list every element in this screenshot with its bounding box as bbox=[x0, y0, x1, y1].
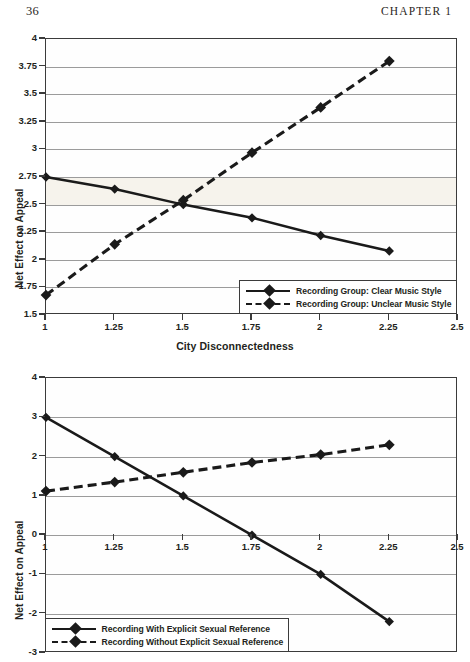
y-tick bbox=[39, 203, 45, 205]
x-tick-label: 2.25 bbox=[368, 541, 408, 552]
legend-label: Recording Without Explicit Sexual Refere… bbox=[102, 637, 284, 647]
x-tick bbox=[182, 534, 184, 540]
x-tick bbox=[250, 314, 252, 320]
y-tick bbox=[39, 148, 45, 150]
y-tick-label: 0 bbox=[1, 528, 37, 539]
y-tick bbox=[39, 37, 45, 39]
y-tick-label: 3.5 bbox=[1, 87, 37, 98]
data-point-marker bbox=[178, 467, 189, 478]
y-tick bbox=[39, 92, 45, 94]
y-tick bbox=[39, 120, 45, 122]
plot-area-bottom: Recording With Explicit Sexual Reference… bbox=[45, 377, 457, 652]
y-tick-label: -3 bbox=[1, 646, 37, 657]
legend-label: Recording With Explicit Sexual Reference bbox=[102, 624, 270, 634]
x-tick-label: 2.5 bbox=[437, 321, 470, 332]
data-point-marker bbox=[247, 213, 256, 222]
y-tick-label: 2.5 bbox=[1, 198, 37, 209]
x-tick bbox=[456, 534, 458, 540]
legend-key-solid-icon bbox=[50, 623, 98, 635]
y-tick-label: 3.75 bbox=[1, 60, 37, 71]
x-tick bbox=[113, 534, 115, 540]
data-point-marker bbox=[316, 231, 325, 240]
legend-key-solid-icon bbox=[244, 285, 292, 297]
x-tick-label: 2.5 bbox=[437, 541, 470, 552]
y-tick-label: -1 bbox=[1, 567, 37, 578]
series-line bbox=[46, 417, 389, 621]
y-tick bbox=[39, 573, 45, 575]
data-point-marker bbox=[315, 449, 326, 460]
data-point-marker bbox=[385, 246, 394, 255]
data-point-marker bbox=[247, 457, 258, 468]
x-tick-label: 1.75 bbox=[231, 321, 271, 332]
data-point-marker bbox=[109, 477, 120, 488]
x-tick-label: 1.25 bbox=[94, 541, 134, 552]
x-tick bbox=[113, 314, 115, 320]
y-tick-label: -2 bbox=[1, 607, 37, 618]
x-tick-label: 1 bbox=[25, 541, 65, 552]
data-point-marker bbox=[110, 184, 119, 193]
x-tick bbox=[44, 534, 46, 540]
y-tick bbox=[39, 612, 45, 614]
x-tick-label: 2 bbox=[300, 541, 340, 552]
y-tick bbox=[39, 651, 45, 653]
x-tick bbox=[388, 534, 390, 540]
y-tick-label: 2 bbox=[1, 253, 37, 264]
legend-bottom: Recording With Explicit Sexual Reference… bbox=[45, 618, 290, 652]
y-tick bbox=[39, 455, 45, 457]
legend-top: Recording Group: Clear Music Style Recor… bbox=[239, 280, 457, 314]
x-tick-label: 1.75 bbox=[231, 541, 271, 552]
y-tick-label: 2 bbox=[1, 450, 37, 461]
x-tick-label: 1.5 bbox=[162, 541, 202, 552]
y-tick-label: 4 bbox=[1, 32, 37, 43]
x-tick bbox=[319, 314, 321, 320]
figure-bottom: Net Effect on Appeal Recording With Expl… bbox=[0, 370, 470, 662]
page-number: 36 bbox=[26, 4, 39, 19]
legend-key-dashed-icon bbox=[50, 636, 98, 648]
legend-label: Recording Group: Clear Music Style bbox=[296, 286, 441, 296]
x-tick-label: 2 bbox=[300, 321, 340, 332]
y-tick-label: 4 bbox=[1, 371, 37, 382]
y-tick bbox=[39, 65, 45, 67]
x-tick-label: 1.5 bbox=[162, 321, 202, 332]
y-tick-label: 1.5 bbox=[1, 308, 37, 319]
series-line bbox=[46, 177, 389, 251]
legend-item: Recording Group: Clear Music Style bbox=[244, 284, 451, 297]
series-lines-top bbox=[46, 39, 458, 315]
y-tick bbox=[39, 175, 45, 177]
x-tick-label: 2.25 bbox=[368, 321, 408, 332]
y-tick bbox=[39, 286, 45, 288]
series-line bbox=[46, 445, 389, 491]
y-tick bbox=[39, 494, 45, 496]
x-axis-title-top: City Disconnectedness bbox=[0, 340, 470, 352]
data-point-marker bbox=[41, 172, 50, 181]
y-tick-label: 3.25 bbox=[1, 115, 37, 126]
y-tick-label: 3 bbox=[1, 410, 37, 421]
x-tick bbox=[44, 314, 46, 320]
legend-item: Recording With Explicit Sexual Reference bbox=[50, 622, 284, 635]
x-tick bbox=[388, 314, 390, 320]
series-lines-bottom bbox=[46, 378, 458, 653]
chapter-label: CHAPTER 1 bbox=[381, 5, 452, 17]
x-tick bbox=[319, 534, 321, 540]
series-line bbox=[46, 61, 389, 295]
running-head: 36 CHAPTER 1 bbox=[0, 0, 470, 26]
y-tick bbox=[39, 230, 45, 232]
y-tick bbox=[39, 416, 45, 418]
y-tick-label: 1 bbox=[1, 489, 37, 500]
plot-area-top: Recording Group: Clear Music Style Recor… bbox=[45, 38, 457, 314]
legend-item: Recording Without Explicit Sexual Refere… bbox=[50, 635, 284, 648]
x-tick-label: 1 bbox=[25, 321, 65, 332]
legend-label: Recording Group: Unclear Music Style bbox=[296, 299, 451, 309]
legend-key-dashed-icon bbox=[244, 298, 292, 310]
y-tick-label: 1.75 bbox=[1, 280, 37, 291]
y-tick bbox=[39, 376, 45, 378]
x-tick bbox=[456, 314, 458, 320]
legend-item: Recording Group: Unclear Music Style bbox=[244, 297, 451, 310]
y-tick bbox=[39, 258, 45, 260]
y-tick-label: 2.25 bbox=[1, 225, 37, 236]
y-tick-label: 3 bbox=[1, 142, 37, 153]
y-tick-label: 2.75 bbox=[1, 170, 37, 181]
figure-top: Net Effect on Appeal Recording Group: Cl… bbox=[0, 30, 470, 360]
data-point-marker bbox=[384, 439, 395, 450]
x-tick bbox=[250, 534, 252, 540]
